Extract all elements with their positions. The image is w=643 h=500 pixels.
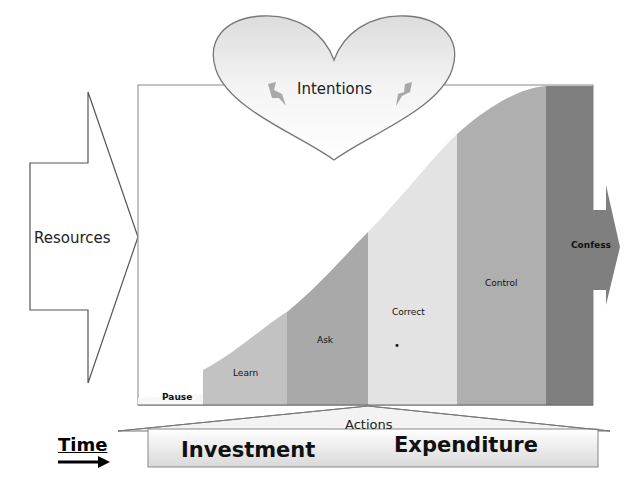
diagram-canvas (0, 0, 643, 500)
correct-marker: • (394, 340, 400, 351)
expenditure-label: Expenditure (394, 433, 538, 457)
band-control (457, 85, 546, 405)
actions-label: Actions (345, 417, 393, 432)
time-label: Time (58, 434, 107, 455)
stage-label-pause: Pause (162, 392, 192, 402)
investment-label: Investment (181, 438, 315, 462)
intentions-label: Intentions (297, 80, 372, 98)
resources-label: Resources (34, 229, 111, 247)
stage-label-correct: Correct (392, 307, 425, 317)
time-arrow (58, 456, 110, 468)
stage-label-confess: Confess (571, 240, 611, 250)
stage-label-learn: Learn (233, 368, 258, 378)
stage-label-ask: Ask (317, 335, 333, 345)
stage-label-control: Control (485, 278, 518, 288)
